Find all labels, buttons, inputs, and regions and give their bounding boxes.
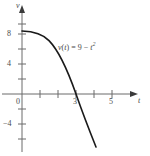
y-tick-label-negative-4: −4 [3,120,12,128]
velocity-function-figure: v t 8 4 −4 0 3 5 v(t) = 9 − t2 [0,0,150,156]
equation-close-paren: ) [66,43,69,52]
x-tick-label-0: 0 [16,98,20,106]
x-axis-arrow-icon [130,91,138,97]
x-tick-label-3: 3 [73,98,77,106]
plot-canvas [0,0,150,156]
y-axis-label: v [16,2,20,10]
curve-equation-label: v(t) = 9 − t2 [58,44,95,52]
y-tick-label-4: 4 [7,60,11,68]
y-tick-label-8: 8 [7,30,11,38]
x-tick-label-5: 5 [109,98,113,106]
x-axis-label: t [138,97,140,105]
equation-equals-nine-minus: = 9 − [71,43,88,52]
equation-exponent: 2 [92,41,95,47]
